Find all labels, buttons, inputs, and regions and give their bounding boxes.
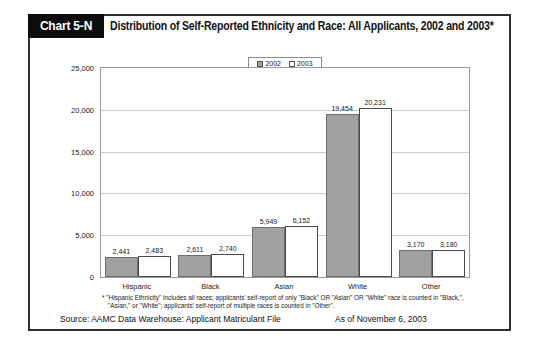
- value-label-2003-hispanic: 2,483: [132, 247, 176, 254]
- bar-2002-other: [399, 250, 432, 277]
- x-tick-black: Black: [174, 282, 248, 291]
- x-tick-asian: Asian: [247, 282, 321, 291]
- chart-frame: Chart 5-N Distribution of Self-Reported …: [28, 14, 511, 331]
- page: Chart 5-N Distribution of Self-Reported …: [0, 0, 538, 351]
- y-tick-0: 0: [34, 273, 94, 282]
- y-tick-15000: 15,000: [34, 148, 94, 157]
- value-label-2003-black: 2,740: [206, 245, 250, 252]
- bar-2002-hispanic: [105, 257, 138, 277]
- value-label-2003-asian: 6,152: [280, 217, 324, 224]
- chart-number-tab: Chart 5-N: [28, 14, 104, 38]
- x-tick-hispanic: Hispanic: [100, 282, 174, 291]
- bar-2003-white: [359, 108, 392, 277]
- y-tick-20000: 20,000: [34, 106, 94, 115]
- y-tick-10000: 10,000: [34, 189, 94, 198]
- footnote-line-1: * "Hispanic Ethnicity" includes all race…: [102, 294, 498, 302]
- chart-title: Distribution of Self-Reported Ethnicity …: [110, 14, 494, 38]
- bar-2002-white: [326, 114, 359, 277]
- legend-label-2002: 2002: [265, 60, 281, 67]
- footnote-line-2: "Asian," or "White"; applicants' self-re…: [102, 302, 498, 310]
- gridline-20000: [101, 110, 469, 111]
- source-text: Source: AAMC Data Warehouse: Applicant M…: [60, 314, 281, 324]
- bar-2002-asian: [252, 227, 285, 277]
- x-tick-other: Other: [394, 282, 468, 291]
- value-label-2002-white: 19,454: [320, 105, 364, 112]
- y-tick-5000: 5,000: [34, 231, 94, 240]
- bar-2003-black: [211, 254, 244, 277]
- value-label-2003-white: 20,231: [353, 99, 397, 106]
- footnote: * "Hispanic Ethnicity" includes all race…: [102, 294, 498, 309]
- legend-item-2003: 2003: [289, 60, 313, 67]
- plot-area: 2,4412,4832,6112,7405,9496,15219,45420,2…: [100, 67, 470, 278]
- gridline-15000: [101, 152, 469, 153]
- bar-2003-hispanic: [138, 256, 171, 277]
- bar-2003-other: [432, 250, 465, 277]
- y-tick-25000: 25,000: [34, 64, 94, 73]
- bar-2003-asian: [285, 226, 318, 277]
- x-tick-white: White: [321, 282, 395, 291]
- legend-label-2003: 2003: [297, 60, 313, 67]
- bar-2002-black: [178, 255, 211, 277]
- legend-item-2002: 2002: [257, 60, 281, 67]
- as-of-date: As of November 6, 2003: [335, 314, 427, 324]
- value-label-2003-other: 3,180: [427, 241, 471, 248]
- gridline-10000: [101, 193, 469, 194]
